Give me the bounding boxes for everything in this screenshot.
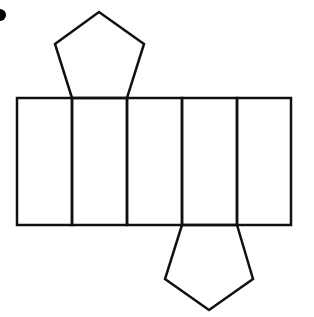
lateral-face-3: [127, 98, 182, 225]
bottom-pentagon-face: [165, 225, 253, 310]
pentagonal-prism-net: [0, 0, 314, 317]
lateral-faces: [17, 98, 291, 225]
lateral-face-1: [17, 98, 72, 225]
lateral-face-5: [237, 98, 291, 225]
bullet-dot: [0, 9, 6, 21]
lateral-face-2: [72, 98, 127, 225]
top-pentagon-face: [55, 12, 144, 98]
lateral-face-4: [182, 98, 237, 225]
